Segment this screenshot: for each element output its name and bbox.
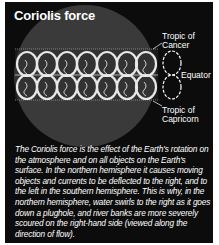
tropic-of-cancer-label: Tropic of Cancer — [162, 32, 195, 50]
title: Coriolis force — [14, 8, 95, 23]
cancer-leader — [153, 43, 162, 49]
tropic-of-capricorn-label: Tropic of Capricorn — [162, 106, 199, 124]
caption: The Coriolis force is the effect of the … — [15, 144, 211, 239]
tropic-capricorn-line2: Capricorn — [162, 115, 199, 124]
tropic-cancer-line2: Cancer — [162, 41, 195, 50]
figure-eight-icon — [163, 51, 181, 99]
coriolis-panel: Coriolis force Tropic of Cancer Equator … — [5, 2, 213, 243]
equator-label: Equator — [181, 71, 211, 80]
capricorn-leader — [153, 101, 162, 106]
